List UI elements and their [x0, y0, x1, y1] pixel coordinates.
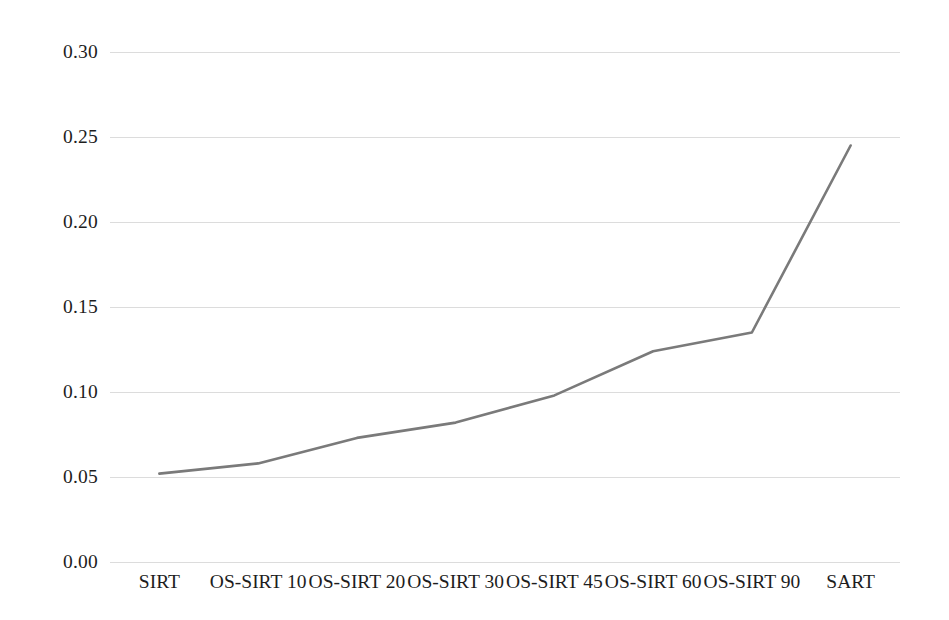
- x-tick-label: OS-SIRT 45: [506, 572, 603, 592]
- gridline: [110, 137, 900, 138]
- y-tick-label: 0.10: [63, 382, 98, 402]
- y-tick-label: 0.25: [63, 127, 98, 147]
- y-tick-label: 0.15: [63, 297, 98, 317]
- chart-container: 0.300.250.200.150.100.050.00 SIRTOS-SIRT…: [0, 0, 949, 620]
- x-tick-label: SART: [826, 572, 875, 592]
- x-tick-label: OS-SIRT 90: [704, 572, 801, 592]
- gridline: [110, 562, 900, 563]
- gridline: [110, 307, 900, 308]
- x-tick-label: OS-SIRT 30: [407, 572, 504, 592]
- x-tick-label: OS-SIRT 20: [309, 572, 406, 592]
- y-tick-label: 0.00: [63, 552, 98, 572]
- y-tick-label: 0.30: [63, 42, 98, 62]
- gridline: [110, 477, 900, 478]
- gridline: [110, 52, 900, 53]
- gridline: [110, 392, 900, 393]
- y-axis: 0.300.250.200.150.100.050.00: [36, 40, 98, 575]
- y-tick-label: 0.20: [63, 212, 98, 232]
- x-tick-label: SIRT: [139, 572, 180, 592]
- x-tick-label: OS-SIRT 60: [605, 572, 702, 592]
- gridline: [110, 222, 900, 223]
- x-tick-label: OS-SIRT 10: [210, 572, 307, 592]
- x-axis: SIRTOS-SIRT 10OS-SIRT 20OS-SIRT 30OS-SIR…: [0, 572, 949, 604]
- plot-area: [110, 40, 900, 575]
- y-tick-label: 0.05: [63, 467, 98, 487]
